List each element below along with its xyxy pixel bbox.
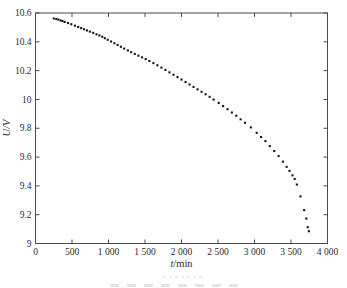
x-tick-label: 0 [33, 247, 38, 257]
data-point [95, 33, 97, 35]
data-point [192, 86, 194, 88]
y-tick-label: 9.4 [20, 181, 32, 191]
y-tick-label: 10.2 [15, 66, 32, 76]
data-point [197, 88, 199, 90]
data-point [286, 166, 288, 168]
data-point [184, 81, 186, 83]
data-point [160, 67, 162, 69]
data-point [244, 122, 246, 124]
data-point [110, 40, 112, 42]
x-tick-label: 4 000 [317, 247, 339, 257]
data-point [231, 111, 233, 113]
data-point [74, 25, 76, 27]
x-tick-label: 1 500 [134, 247, 156, 257]
data-point [148, 60, 150, 62]
data-point [164, 69, 166, 71]
x-axis-label: t/min [170, 258, 193, 269]
data-point [130, 51, 132, 53]
x-tick-label: 3 000 [244, 247, 266, 257]
data-point [307, 226, 309, 228]
y-tick-label: 9.6 [20, 152, 32, 162]
data-point [98, 34, 100, 36]
data-point [55, 18, 57, 20]
data-point [89, 31, 91, 33]
data-point [240, 118, 242, 120]
data-point [137, 55, 139, 57]
data-point [299, 195, 301, 197]
data-point [113, 42, 115, 44]
data-point [67, 22, 69, 24]
cropped-caption-remnant [110, 284, 238, 287]
data-point [222, 105, 224, 107]
y-tick-label: 10.4 [15, 37, 32, 47]
data-point [278, 155, 280, 157]
y-tick-label: 9 [27, 239, 32, 249]
data-point [260, 136, 262, 138]
data-point [156, 64, 158, 66]
data-point [77, 26, 79, 28]
data-point [176, 76, 178, 78]
y-tick-label: 9.2 [20, 210, 32, 220]
data-point [273, 150, 275, 152]
data-point [134, 53, 136, 55]
data-point [53, 17, 55, 19]
data-point [264, 140, 266, 142]
data-point [83, 28, 85, 30]
data-point [294, 178, 296, 180]
data-point [57, 19, 59, 21]
x-tick-label: 2 000 [171, 247, 193, 257]
data-point [64, 21, 66, 23]
data-point [303, 209, 305, 211]
data-point [172, 74, 174, 76]
data-point [308, 230, 310, 232]
chart-plot-area: 05001 0001 5002 0002 5003 0003 5004 0009… [15, 8, 339, 256]
data-point [145, 58, 147, 60]
data-point [117, 44, 119, 46]
data-point [120, 46, 122, 48]
data-point [205, 93, 207, 95]
scatter-chart: 05001 0001 5002 0002 5003 0003 5004 0009… [0, 0, 347, 288]
data-point [61, 20, 63, 22]
x-tick-label: 2 500 [207, 247, 229, 257]
figure-page: 05001 0001 5002 0002 5003 0003 5004 0009… [0, 0, 347, 288]
data-point [209, 96, 211, 98]
data-point [305, 218, 307, 220]
data-point [107, 39, 109, 41]
data-point [101, 36, 103, 38]
y-tick-label: 10.6 [15, 8, 32, 18]
data-point [104, 37, 106, 39]
cropped-caption-speckle [163, 276, 205, 278]
data-point [127, 49, 129, 51]
x-tick-label: 500 [65, 247, 80, 257]
data-point [235, 115, 237, 117]
data-point [141, 56, 143, 58]
data-point [213, 99, 215, 101]
data-point [269, 145, 271, 147]
data-point [70, 23, 72, 25]
data-point [188, 83, 190, 85]
data-point [80, 27, 82, 29]
x-tick-label: 3 500 [280, 247, 302, 257]
data-point [282, 161, 284, 163]
x-tick-label: 1 000 [98, 247, 120, 257]
data-point [218, 102, 220, 104]
y-tick-label: 9.8 [20, 123, 32, 133]
data-point [92, 32, 94, 34]
data-point [152, 62, 154, 64]
data-point [288, 170, 290, 172]
y-tick-label: 10 [22, 95, 32, 105]
data-point [291, 174, 293, 176]
data-point [180, 79, 182, 81]
y-axis-label: U/V [1, 118, 12, 137]
data-point [256, 132, 258, 134]
data-point [250, 126, 252, 128]
axes-frame [36, 13, 328, 244]
data-point [86, 29, 88, 31]
x-axis-unit: /min [173, 258, 193, 269]
data-point [296, 184, 298, 186]
data-point [168, 71, 170, 73]
data-point [201, 91, 203, 93]
data-point [60, 19, 62, 21]
data-point [123, 48, 125, 50]
data-point [226, 108, 228, 110]
